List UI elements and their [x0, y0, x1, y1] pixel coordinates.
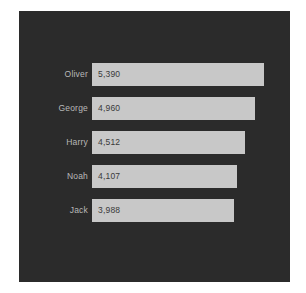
- bar-row: George4,960: [19, 97, 290, 120]
- bar[interactable]: 4,107: [92, 165, 237, 188]
- bar-category-label: George: [58, 97, 88, 120]
- bar-value-label: 3,988: [98, 199, 120, 222]
- bar-value-label: 4,107: [98, 165, 120, 188]
- bar[interactable]: 3,988: [92, 199, 234, 222]
- chart-panel: Oliver5,390George4,960Harry4,512Noah4,10…: [19, 11, 290, 282]
- bar-row: Noah4,107: [19, 165, 290, 188]
- bar-row: Oliver5,390: [19, 63, 290, 86]
- bar[interactable]: 4,960: [92, 97, 255, 120]
- bar-value-label: 4,512: [98, 131, 120, 154]
- bar[interactable]: 4,512: [92, 131, 245, 154]
- bar-value-label: 4,960: [98, 97, 120, 120]
- plot-area: Oliver5,390George4,960Harry4,512Noah4,10…: [19, 11, 290, 282]
- bar-row: Harry4,512: [19, 131, 290, 154]
- bar-row: Jack3,988: [19, 199, 290, 222]
- bar-category-label: Jack: [70, 199, 88, 222]
- bar-category-label: Oliver: [65, 63, 88, 86]
- bar-category-label: Noah: [67, 165, 88, 188]
- bar-category-label: Harry: [66, 131, 88, 154]
- bar[interactable]: 5,390: [92, 63, 264, 86]
- bar-value-label: 5,390: [98, 63, 120, 86]
- chart-figure: Oliver5,390George4,960Harry4,512Noah4,10…: [0, 0, 306, 293]
